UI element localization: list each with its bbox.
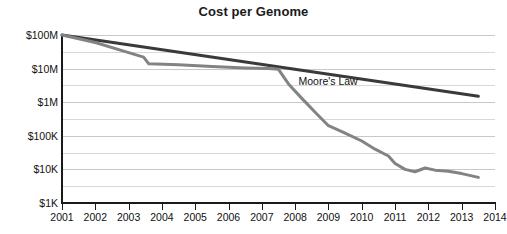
x-axis-tick-label: 2004	[150, 211, 173, 223]
x-axis-tick-label: 2014	[483, 211, 506, 223]
cost-per-genome-chart: Cost per Genome $100M$10M$1M$100K$10K$1K…	[0, 0, 507, 234]
x-axis-tick	[295, 204, 296, 210]
x-axis-tick	[229, 204, 230, 210]
gridline-major	[62, 69, 495, 70]
x-axis-tick-label: 2001	[50, 211, 73, 223]
gridline-major	[62, 169, 495, 170]
gridline-minor	[62, 186, 495, 187]
y-axis-tick-label: $100K	[2, 130, 58, 142]
x-axis-tick	[362, 204, 363, 210]
x-axis-tick-label: 2012	[417, 211, 440, 223]
gridline-major	[62, 102, 495, 103]
x-axis-tick	[195, 204, 196, 210]
x-axis-tick	[95, 204, 96, 210]
x-axis-tick	[162, 204, 163, 210]
x-axis-tick-label: 2002	[84, 211, 107, 223]
x-axis-tick	[462, 204, 463, 210]
y-axis-labels: $100M$10M$1M$100K$10K$1K	[0, 0, 58, 234]
gridline-minor	[62, 85, 495, 86]
y-axis-line	[61, 34, 63, 204]
x-axis-tick-label: 2006	[217, 211, 240, 223]
x-axis-tick-label: 2011	[384, 211, 407, 223]
x-axis-tick	[395, 204, 396, 210]
x-axis-tick-label: 2013	[450, 211, 473, 223]
gridline-minor	[62, 153, 495, 154]
gridline-minor	[62, 119, 495, 120]
gridline-major	[62, 136, 495, 137]
x-axis-tick-label: 2007	[250, 211, 273, 223]
y-axis-tick-label: $1M	[2, 96, 58, 108]
x-axis-line	[61, 202, 496, 204]
x-axis-tick-label: 2009	[317, 211, 340, 223]
y-axis-tick-label: $10K	[2, 163, 58, 175]
chart-title: Cost per Genome	[0, 4, 507, 19]
gridline-minor	[62, 52, 495, 53]
moores-law-annotation: Moore's Law	[298, 75, 357, 87]
y-axis-tick-label: $1K	[2, 197, 58, 209]
x-axis-tick	[129, 204, 130, 210]
y-axis-tick-label: $100M	[2, 29, 58, 41]
plot-area	[62, 35, 495, 203]
x-axis-tick-label: 2003	[117, 211, 140, 223]
y-axis-tick-label: $10M	[2, 63, 58, 75]
x-axis-tick	[328, 204, 329, 210]
x-axis-tick	[62, 204, 63, 210]
x-axis-tick	[495, 204, 496, 210]
x-axis-tick-label: 2008	[283, 211, 306, 223]
x-axis-tick	[262, 204, 263, 210]
x-axis-tick-label: 2010	[350, 211, 373, 223]
x-axis-tick	[428, 204, 429, 210]
gridline-major	[62, 35, 495, 36]
x-axis-tick-label: 2005	[184, 211, 207, 223]
